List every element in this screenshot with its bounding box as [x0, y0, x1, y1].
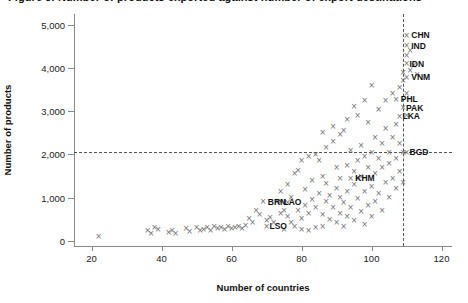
data-point [344, 188, 351, 195]
data-point [323, 144, 330, 151]
x-tick [232, 246, 233, 251]
data-point [186, 228, 193, 235]
y-tick [68, 68, 74, 69]
data-point [319, 173, 326, 180]
y-tick [68, 25, 74, 26]
annotation-lao: LAO [284, 197, 302, 207]
data-point [172, 230, 179, 237]
data-point [365, 164, 372, 171]
data-point [298, 157, 305, 164]
data-point [403, 52, 410, 59]
data-point [354, 112, 361, 119]
data-point [347, 204, 354, 211]
data-point [277, 188, 284, 195]
data-point [393, 155, 400, 162]
data-point [330, 123, 337, 130]
data-point [393, 121, 400, 128]
annotation-lka: LKA [403, 111, 420, 121]
data-point [382, 125, 389, 132]
x-tick [92, 246, 93, 251]
plot-area: 01,0002,0003,0004,0005,00020406080100120… [74, 14, 452, 246]
data-point [232, 224, 239, 231]
data-point [354, 157, 361, 164]
data-point [396, 140, 403, 147]
data-point [333, 164, 340, 171]
data-point [337, 194, 344, 201]
data-point [211, 223, 218, 230]
data-point [361, 188, 368, 195]
data-point [302, 186, 309, 193]
data-point [239, 225, 246, 232]
data-point [319, 211, 326, 218]
data-point [389, 134, 396, 141]
data-point [354, 195, 361, 202]
data-point [365, 202, 372, 209]
y-tick [68, 241, 74, 242]
data-point [291, 223, 298, 230]
data-point [267, 214, 274, 221]
data-point [305, 153, 312, 160]
data-point [291, 170, 298, 177]
data-point [312, 204, 319, 211]
data-point [389, 175, 396, 182]
data-point [368, 213, 375, 220]
data-point [375, 155, 382, 162]
y-tick-label: 2,000 [41, 149, 65, 160]
data-point [379, 164, 386, 171]
y-tick [68, 111, 74, 112]
data-point [393, 185, 400, 192]
data-point [393, 96, 400, 103]
data-point [165, 229, 172, 236]
data-point [281, 207, 288, 214]
data-point [358, 208, 365, 215]
data-point [288, 219, 295, 226]
data-point [375, 190, 382, 197]
x-axis-title: Number of countries [74, 282, 452, 293]
data-point [347, 175, 354, 182]
y-axis-title: Number of products [2, 85, 13, 176]
data-point [403, 74, 410, 81]
data-point [95, 233, 102, 240]
data-point [379, 207, 386, 214]
data-point [361, 221, 368, 228]
data-point [379, 140, 386, 147]
annotation-idn: IDN [410, 59, 425, 69]
data-point [358, 142, 365, 149]
data-point [403, 42, 410, 49]
data-point [309, 196, 316, 203]
data-point [333, 185, 340, 192]
data-point [298, 226, 305, 233]
data-point [351, 217, 358, 224]
data-point [351, 103, 358, 110]
data-point [337, 131, 344, 138]
y-tick-label: 0 [60, 235, 65, 246]
data-point [193, 224, 200, 231]
data-point [361, 97, 368, 104]
annotation-vnm: VNM [411, 72, 430, 82]
data-point [330, 138, 337, 145]
data-point [295, 207, 302, 214]
data-point [326, 216, 333, 223]
x-tick [162, 246, 163, 251]
data-point [221, 226, 228, 233]
data-point [302, 202, 309, 209]
data-point [235, 223, 242, 230]
data-point [144, 227, 151, 234]
data-point [323, 198, 330, 205]
data-point [372, 134, 379, 141]
x-tick-label: 20 [86, 253, 97, 264]
data-point [284, 181, 291, 188]
data-point [305, 210, 312, 217]
data-point [225, 223, 232, 230]
x-tick [442, 246, 443, 251]
figure-title: Figure 3. Number of products exported ag… [8, 0, 422, 3]
data-point [372, 198, 379, 205]
data-point [337, 210, 344, 217]
x-tick [302, 246, 303, 251]
data-point [382, 179, 389, 186]
data-point [368, 82, 375, 89]
y-tick-label: 4,000 [41, 63, 65, 74]
x-tick-label: 40 [156, 253, 167, 264]
data-point [344, 213, 351, 220]
data-point [312, 224, 319, 231]
